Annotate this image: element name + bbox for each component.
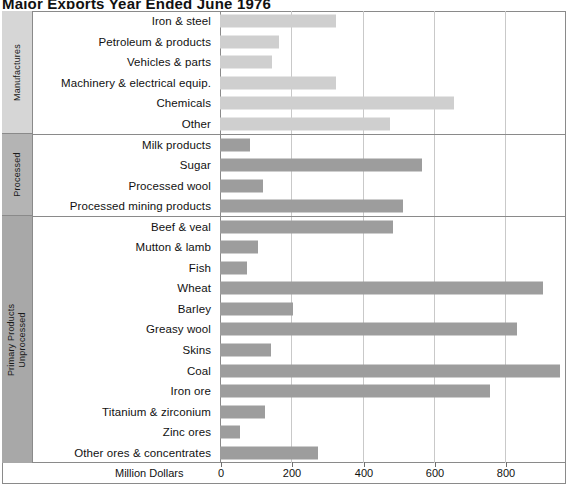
bar [220,56,272,69]
bar-cell [217,401,566,422]
bar [220,241,258,254]
bar-row: Mutton & lamb [33,237,566,258]
bar-cell [217,381,566,402]
group-band-label: Primary ProductsUnprocessed [7,304,29,376]
page-title: Major Exports Year Ended June 1976 [2,0,271,9]
bar-rows: Iron & steelPetroleum & productsVehicles… [33,11,566,463]
bar [220,159,422,172]
bar-cell [217,114,566,135]
bar-cell [217,216,566,237]
bar [220,302,293,315]
bar-cell [217,73,566,94]
group-band-label: Manufactures [12,44,23,101]
axis-tick-label: 200 [283,467,301,479]
bar [220,138,250,151]
bar-row-label: Machinery & electrical equip. [33,77,217,89]
group-divider [33,216,566,217]
group-band-manufactures: Manufactures [2,11,33,134]
bar-cell [217,278,566,299]
bar-cell [217,11,566,32]
bar-row-label: Coal [33,365,217,377]
bar [220,426,240,439]
bar-row: Chemicals [33,93,566,114]
bar-cell [217,93,566,114]
axis-tick-label: 400 [355,467,373,479]
bar-row: Milk products [33,134,566,155]
group-band-column: ManufacturesProcessedPrimary ProductsUnp… [2,11,33,463]
group-band-primary-products: Primary ProductsUnprocessed [2,216,33,463]
bar-row-label: Barley [33,303,217,315]
axis-tick-label: 800 [497,467,515,479]
bar-cell [217,258,566,279]
bar-row-label: Titanium & zirconium [33,406,217,418]
bar [220,97,454,110]
bar-cell [217,442,566,463]
bar-row-label: Beef & veal [33,221,217,233]
group-divider [33,134,566,135]
bar-row: Coal [33,360,566,381]
bar [220,35,279,48]
bar-row-label: Zinc ores [33,426,217,438]
bar-row: Other ores & concentrates [33,442,566,463]
bar-row-label: Skins [33,344,217,356]
bar-row: Petroleum & products [33,32,566,53]
bar-row: Zinc ores [33,422,566,443]
bar [220,200,403,213]
bar-row-label: Iron & steel [33,15,217,27]
bar-row-label: Processed wool [33,180,217,192]
bar [220,76,336,89]
bar [220,405,265,418]
bar-row: Barley [33,299,566,320]
bar [220,323,517,336]
bar-row: Fish [33,258,566,279]
axis-tick-label: 0 [218,467,224,479]
bar [220,446,318,459]
bar-cell [217,360,566,381]
bar [220,261,247,274]
bar-row: Other [33,114,566,135]
bar-row-label: Vehicles & parts [33,56,217,68]
bar-row: Wheat [33,278,566,299]
bar-cell [217,422,566,443]
bar [220,364,560,377]
bar-cell [217,319,566,340]
bar-row: Machinery & electrical equip. [33,73,566,94]
bar-row-label: Wheat [33,282,217,294]
bar-cell [217,299,566,320]
group-band-processed: Processed [2,134,33,216]
bar [220,282,543,295]
bar-row-label: Milk products [33,139,217,151]
bar-cell [217,52,566,73]
bar-row: Iron ore [33,381,566,402]
bar-row-label: Processed mining products [33,200,217,212]
bar-row: Titanium & zirconium [33,401,566,422]
bar-row: Greasy wool [33,319,566,340]
bar [220,179,263,192]
bar-cell [217,237,566,258]
bar-row: Skins [33,340,566,361]
bar-cell [217,134,566,155]
bar-row-label: Sugar [33,159,217,171]
x-axis: Million Dollars 0200400600800 [2,463,566,484]
bar-row: Processed mining products [33,196,566,217]
bar [220,15,336,28]
bar-row-label: Fish [33,262,217,274]
bar [220,117,390,130]
bar-row: Processed wool [33,175,566,196]
bar-cell [217,32,566,53]
axis-tick-label: 600 [426,467,444,479]
bar [220,220,393,233]
bar-cell [217,175,566,196]
bar-cell [217,340,566,361]
axis-title: Million Dollars [115,467,183,479]
bar-row: Iron & steel [33,11,566,32]
bar-row-label: Other ores & concentrates [33,447,217,459]
bar-row: Beef & veal [33,216,566,237]
bar-row-label: Petroleum & products [33,36,217,48]
bar [220,385,490,398]
group-band-label: Processed [12,153,23,197]
bar-row-label: Greasy wool [33,323,217,335]
bar-row-label: Iron ore [33,385,217,397]
bar-row-label: Chemicals [33,97,217,109]
bar [220,343,271,356]
